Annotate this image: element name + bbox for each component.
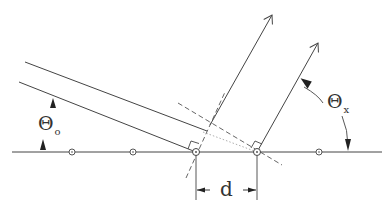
exit-ray-left [210, 15, 272, 125]
atom [130, 149, 136, 155]
path-difference-dotted [203, 132, 257, 152]
atom [69, 149, 75, 155]
exit-ray-right [257, 43, 318, 152]
incident-wavefront-dashed [178, 103, 282, 165]
theta-o-subscript: o [55, 126, 61, 137]
theta-o-arrow-bottom-icon [40, 139, 46, 150]
right-angle-marker-left [188, 141, 199, 149]
theta-x-symbol: Θ [327, 90, 343, 112]
theta-o-label: Θo [38, 114, 60, 133]
theta-x-arc [304, 87, 323, 103]
theta-x-arrow-top-icon [301, 76, 314, 90]
atom [254, 149, 261, 156]
atom [316, 149, 322, 155]
spacing-d-label: d [220, 179, 233, 199]
theta-x-subscript: x [344, 104, 350, 115]
exit-wavefront-dashed [186, 92, 225, 178]
theta-o-arrow-top-icon [50, 98, 56, 108]
atom [193, 149, 200, 156]
theta-x-arrow-bottom-icon [345, 139, 351, 151]
theta-o-symbol: Θ [38, 112, 54, 134]
theta-x-label: Θx [327, 92, 348, 111]
